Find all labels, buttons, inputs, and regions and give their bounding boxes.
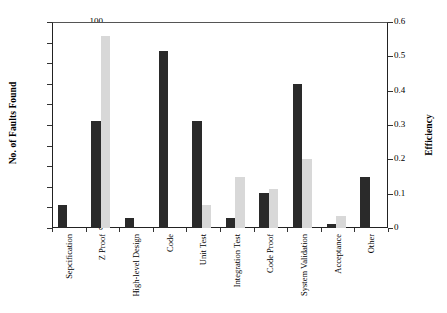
x-axis-category-label: Acceptance — [334, 234, 343, 274]
x-axis-category-label: Code — [166, 234, 175, 252]
bar-group — [220, 22, 254, 228]
x-axis-tick-mark — [52, 228, 53, 232]
bars-layer — [52, 22, 388, 228]
x-axis-tick-mark — [220, 228, 221, 232]
x-axis-category-label: System Validation — [300, 234, 309, 296]
x-axis-category-label: Code Proof — [266, 234, 275, 273]
bar-faults-found — [91, 121, 101, 228]
y-axis-right-tick-mark — [388, 91, 393, 92]
x-axis-tick-mark — [86, 228, 87, 232]
x-axis-tick-mark — [186, 228, 187, 232]
y-axis-right-tick-label: 0.3 — [394, 120, 434, 129]
x-axis-category-label: Unit Test — [199, 234, 208, 265]
y-axis-right-tick-label: 0.1 — [394, 189, 434, 198]
x-axis-category-label: Other — [367, 234, 376, 253]
y-axis-right-tick-label: 0.4 — [394, 86, 434, 95]
x-axis-tick-mark — [354, 228, 355, 232]
x-axis-category-label: Sepcification — [65, 234, 74, 279]
bar-group — [119, 22, 153, 228]
y-axis-right-tick-mark — [388, 56, 393, 57]
x-axis-category-label: Integration Test — [233, 234, 242, 287]
bar-group — [86, 22, 120, 228]
chart-container: No. of Faults Found Efficiency 100908070… — [0, 0, 447, 313]
bar-efficiency — [101, 36, 111, 228]
x-axis-tick-mark — [254, 228, 255, 232]
bar-group — [287, 22, 321, 228]
bar-faults-found — [259, 193, 269, 228]
x-axis-category-label: High-level Design — [132, 234, 141, 297]
bar-faults-found — [293, 84, 303, 228]
bar-efficiency — [202, 205, 212, 228]
x-axis-category-label: Z Proof — [98, 234, 107, 260]
bar-group — [321, 22, 355, 228]
y-axis-right-tick-label: 0.2 — [394, 154, 434, 163]
bar-faults-found — [58, 205, 68, 228]
x-axis-tick-mark — [119, 228, 120, 232]
y-axis-left-title: No. of Faults Found — [8, 63, 18, 183]
bar-group — [254, 22, 288, 228]
y-axis-right-tick-mark — [388, 159, 393, 160]
y-axis-right-tick-label: 0.5 — [394, 51, 434, 60]
bar-faults-found — [125, 218, 135, 228]
x-axis-tick-mark — [153, 228, 154, 232]
bar-faults-found — [360, 177, 370, 229]
x-axis-tick-mark — [388, 228, 389, 232]
bar-faults-found — [226, 218, 236, 228]
bar-faults-found — [159, 51, 169, 228]
y-axis-right-tick-label: 0.6 — [394, 17, 434, 26]
y-axis-right-tick-mark — [388, 125, 393, 126]
x-axis-tick-marks — [52, 228, 388, 233]
bar-group — [354, 22, 388, 228]
bar-efficiency — [336, 216, 346, 228]
bar-group — [52, 22, 86, 228]
x-axis-tick-mark — [287, 228, 288, 232]
y-axis-right-tick-label: 0 — [394, 223, 434, 232]
bar-group — [153, 22, 187, 228]
x-axis-category-labels: SepcificationZ ProofHigh-level DesignCod… — [52, 234, 388, 312]
bar-group — [186, 22, 220, 228]
bar-efficiency — [302, 159, 312, 228]
x-axis-tick-mark — [321, 228, 322, 232]
y-axis-right-tick-mark — [388, 22, 393, 23]
y-axis-right-tick-mark — [388, 194, 393, 195]
bar-faults-found — [192, 121, 202, 228]
bar-efficiency — [269, 189, 279, 228]
bar-efficiency — [235, 177, 245, 229]
